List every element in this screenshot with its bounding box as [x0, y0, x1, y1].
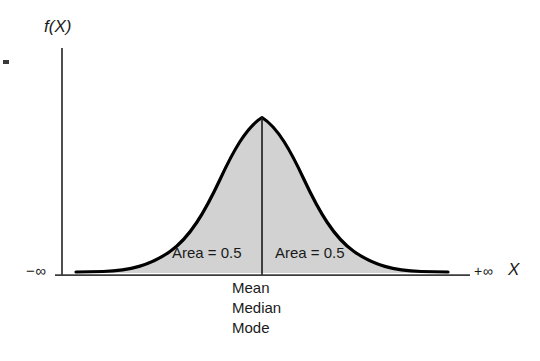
x-axis-label: X — [508, 261, 519, 278]
scan-artifact-speck — [3, 60, 9, 64]
normal-distribution-figure: f(X) −∞ +∞ X Area = 0.5 Area = 0.5 Mean … — [0, 0, 540, 361]
area-label-right: Area = 0.5 — [275, 245, 345, 260]
positive-infinity-label: +∞ — [474, 264, 493, 278]
median-label: Median — [232, 298, 281, 318]
mean-label: Mean — [232, 278, 281, 298]
central-tendency-labels: Mean Median Mode — [232, 278, 281, 338]
mode-label: Mode — [232, 318, 281, 338]
negative-infinity-label: −∞ — [26, 263, 46, 278]
y-axis-label: f(X) — [44, 18, 71, 35]
area-label-left: Area = 0.5 — [172, 245, 242, 260]
